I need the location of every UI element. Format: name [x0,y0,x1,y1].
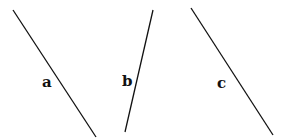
label-c: c [217,74,226,92]
diagram-canvas: a b c [0,0,284,139]
label-a: a [42,73,52,91]
label-b: b [122,72,133,90]
background [0,0,284,139]
